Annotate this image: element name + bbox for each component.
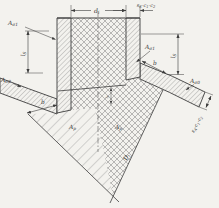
label-b-left: b xyxy=(41,99,45,105)
label-di: di xyxy=(94,7,100,15)
dimension-ls-left xyxy=(25,31,49,73)
nozzle-shell-pressure-area-diagram: di sS-c1-c2 lS lS lS b b sA-c1-c2 xyxy=(0,0,219,208)
label-a-sigma1-left: Aσ1 xyxy=(7,19,18,27)
nozzle-wall-right xyxy=(126,18,140,80)
label-sa: sA-c1-c2 xyxy=(190,114,204,134)
label-ls-right: lS xyxy=(170,54,177,59)
diagram-canvas: di sS-c1-c2 lS lS lS b b sA-c1-c2 xyxy=(0,0,219,208)
nozzle-wall-left xyxy=(57,18,71,113)
label-ss: sS-c1-c2 xyxy=(137,2,156,9)
label-ls-left: lS xyxy=(20,52,27,57)
label-b-right: b xyxy=(153,60,157,66)
label-a-sigma0-right: Aσ0 xyxy=(189,77,200,85)
label-ls-inner: lS xyxy=(105,95,110,98)
leader-a-sigma1-left xyxy=(25,27,56,40)
label-a-sigma1-right: Aσ1 xyxy=(144,43,155,51)
